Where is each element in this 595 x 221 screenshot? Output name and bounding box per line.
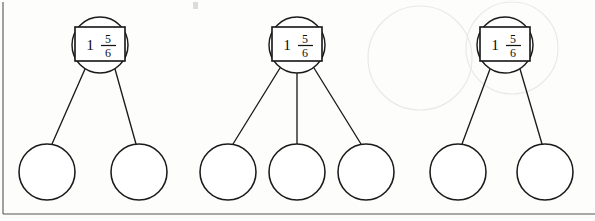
bond-1-value-box[interactable] — [75, 27, 125, 61]
bond-3-numerator: 5 — [510, 32, 516, 46]
bond-3-value-box[interactable] — [480, 27, 530, 61]
scan-speck — [193, 2, 198, 9]
number-bond-1: 1 5 6 — [19, 17, 167, 200]
bond-3-denominator: 6 — [510, 46, 516, 60]
bond-1-whole-number: 1 — [86, 36, 94, 53]
number-bond-3: 1 5 6 — [430, 17, 573, 200]
number-bond-2: 1 5 6 — [200, 17, 394, 200]
number-bond-diagram-canvas: 1 5 6 1 5 6 — [0, 0, 595, 221]
bond-2-child-circle-1[interactable] — [200, 144, 256, 200]
bond-1-child-circle-2[interactable] — [111, 144, 167, 200]
bond-3-child-circle-1[interactable] — [430, 144, 486, 200]
bond-2-whole-number: 1 — [283, 36, 291, 53]
bond-1-branches — [52, 69, 136, 144]
bond-2-child-circle-2[interactable] — [269, 144, 325, 200]
watermark-ring-icon — [368, 6, 472, 110]
bond-1-numerator: 5 — [105, 32, 111, 46]
worksheet-page: 1 5 6 1 5 6 — [0, 0, 595, 221]
bond-3-child-circle-2[interactable] — [517, 144, 573, 200]
bond-1-child-circle-1[interactable] — [19, 144, 75, 200]
bond-3-branches — [462, 69, 542, 144]
bond-2-branches — [233, 68, 361, 144]
bond-2-denominator: 6 — [302, 46, 308, 60]
branch-line — [314, 68, 361, 144]
bond-3-whole-number: 1 — [491, 36, 499, 53]
bond-2-numerator: 5 — [302, 32, 308, 46]
bond-2-value-box[interactable] — [272, 27, 322, 61]
bond-1-denominator: 6 — [105, 46, 111, 60]
branch-line — [462, 69, 490, 144]
branch-line — [520, 69, 542, 144]
branch-line — [233, 68, 280, 144]
bond-2-child-circle-3[interactable] — [338, 144, 394, 200]
branch-line — [115, 69, 136, 144]
branch-line — [52, 69, 85, 144]
